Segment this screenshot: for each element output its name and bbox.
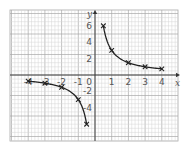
y-tick-label: 4	[86, 37, 92, 47]
y-tick-label: -4	[83, 103, 92, 113]
hyperbola-graph: xy -4-3-2-11234642-2-40	[0, 0, 183, 144]
x-tick-label: 3	[142, 77, 148, 87]
x-tick-label: 2	[126, 77, 132, 87]
y-tick-label: 2	[86, 54, 92, 64]
x-tick-label: -2	[57, 77, 66, 87]
x-tick-label: -1	[74, 77, 83, 87]
x-tick-label: 1	[109, 77, 115, 87]
y-tick-label: -2	[83, 86, 92, 96]
grid-paper	[10, 10, 178, 141]
y-axis-label: y	[86, 9, 93, 19]
x-axis-label: x	[175, 78, 180, 88]
x-tick-label: -3	[40, 77, 49, 87]
origin-label: 0	[86, 77, 92, 87]
y-tick-label: 6	[86, 21, 92, 31]
x-tick-label: 4	[159, 77, 165, 87]
